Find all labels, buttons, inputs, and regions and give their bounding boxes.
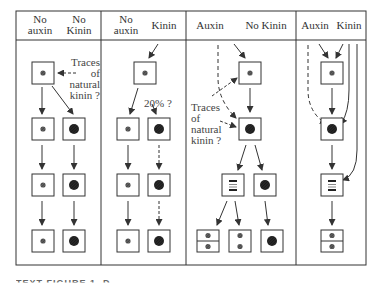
panel-1-header-left: No auxin [22,14,58,36]
header-text: Kinin [332,20,366,31]
annotation-line: kinin ? [191,135,231,146]
header-text: Auxin [192,20,228,31]
header-text: Auxin [298,20,332,31]
panel-2-annotation: 20% ? [144,98,172,109]
header-text: No Kinin [240,20,292,31]
header-text: auxin [108,25,144,36]
panel-1-header-right: No Kinin [60,14,98,36]
panel-2-header-right: Kinin [146,20,182,31]
header-text: Kinin [146,20,182,31]
header-text: Kinin [60,25,98,36]
panel-4-header-left: Auxin [298,20,332,31]
panel-3-header-left: Auxin [192,20,228,31]
panel-3-header-right: No Kinin [240,20,292,31]
header-text: auxin [22,25,58,36]
panel-4-diagram [308,44,357,252]
annotation-line: kinin ? [62,90,100,101]
panel-2-header-left: No auxin [108,14,144,36]
panel-4-header-right: Kinin [332,20,366,31]
annotation-line: 20% ? [144,97,172,109]
panel-3-annotation: Traces of natural kinin ? [191,102,231,146]
panel-2-diagram [117,44,170,252]
diagram-canvas [0,0,377,285]
panel-1-annotation: Traces of natural kinin ? [62,57,100,101]
panel-3-diagram [197,44,283,252]
